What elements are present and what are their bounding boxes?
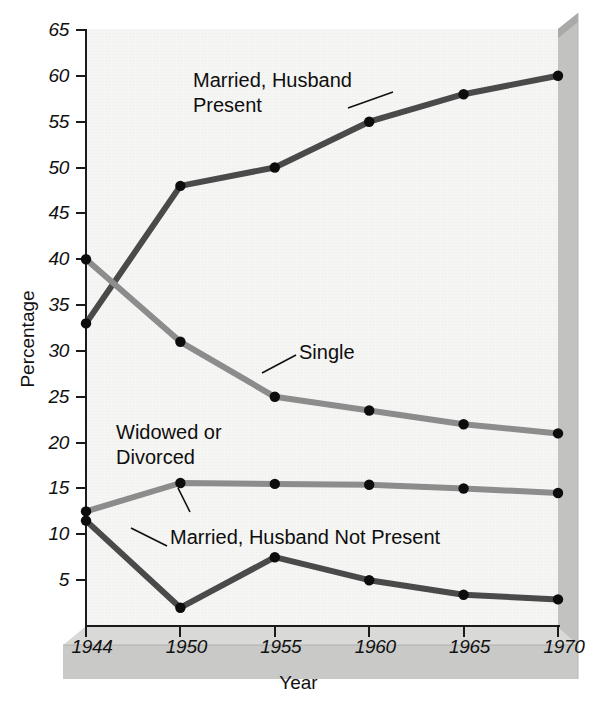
annotation-married-husband-not-present: Married, Husband Not Present <box>170 525 440 550</box>
x-axis-title: Year <box>0 672 597 694</box>
annotation-married-husband-present: Married, Husband Present <box>193 68 352 118</box>
y-axis-title: Percentage <box>17 259 39 419</box>
annotation-single: Single <box>299 340 355 365</box>
leader-line-single <box>262 355 296 373</box>
annotation-widowed-or-divorced: Widowed or Divorced <box>116 420 222 470</box>
leader-line-married-husband-present <box>348 92 393 108</box>
leader-line-married-husband-not-present <box>131 528 167 546</box>
line-chart-figure: 5101520253035404550556065 19441950195519… <box>0 0 597 710</box>
leader-line-widowed-or-divorced <box>178 488 190 512</box>
